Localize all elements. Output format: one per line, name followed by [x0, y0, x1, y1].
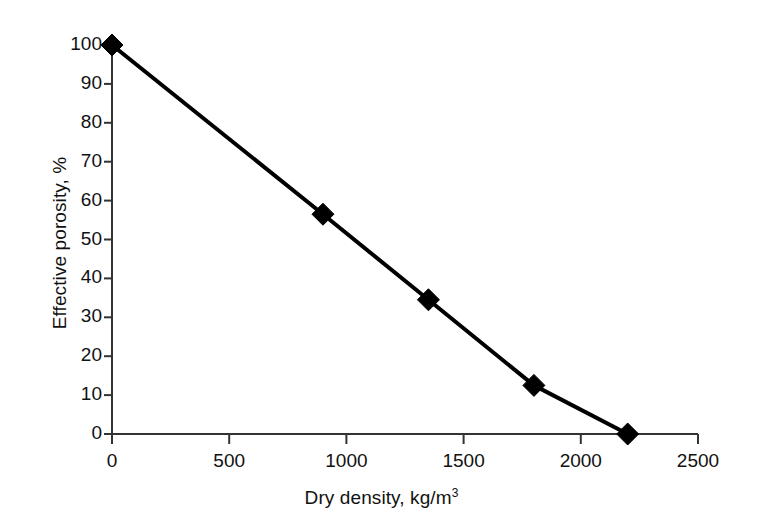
data-line: [112, 45, 628, 434]
chart-figure: Effective porosity, % Dry density, kg/m3…: [0, 0, 763, 527]
data-point-marker: [617, 423, 639, 445]
plot-area: [0, 0, 763, 527]
data-series-group: [101, 34, 639, 445]
axes-group: [104, 43, 698, 444]
